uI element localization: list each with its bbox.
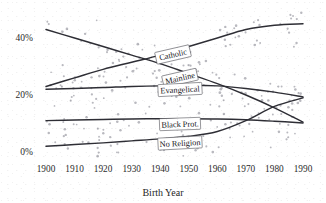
scatter-point (182, 155, 184, 157)
scatter-point (242, 98, 244, 100)
scatter-point (253, 44, 256, 47)
scatter-point (294, 133, 296, 135)
scatter-point (128, 125, 130, 127)
scatter-point (211, 151, 214, 154)
scatter-point (117, 152, 119, 154)
scatter-point (103, 76, 105, 78)
scatter-point (218, 146, 220, 148)
x-tick-1960: 1960 (208, 164, 227, 174)
series-label-catholic: Catholic (155, 45, 192, 65)
scatter-point (134, 101, 137, 104)
scatter-point (229, 44, 231, 46)
scatter-point (234, 73, 236, 75)
scatter-point (295, 42, 297, 44)
series-label-text: Black Prot. (161, 119, 199, 129)
scatter-point (198, 61, 201, 64)
scatter-point (98, 46, 100, 48)
scatter-point (235, 24, 238, 27)
scatter-point (61, 86, 63, 88)
scatter-point (287, 124, 289, 126)
scatter-point (82, 141, 84, 143)
scatter-point (218, 105, 220, 107)
x-tick-1900: 1900 (37, 164, 56, 174)
scatter-point (269, 83, 271, 85)
scatter-point (126, 76, 128, 78)
series-label-no-religion: No Religion (158, 136, 203, 150)
scatter-point (234, 37, 236, 39)
scatter-point (263, 108, 265, 110)
scatter-point (112, 62, 115, 65)
scatter-point (215, 74, 217, 76)
scatter-point (148, 106, 150, 108)
scatter-point (110, 145, 112, 147)
x-tick-1980: 1980 (265, 164, 284, 174)
scatter-point (299, 99, 302, 102)
scatter-point (294, 88, 297, 91)
scatter-point (223, 113, 226, 116)
scatter-point (65, 134, 67, 136)
scatter-point (106, 51, 108, 53)
scatter-point (111, 89, 114, 92)
scatter-point (91, 93, 93, 95)
scatter-point (296, 102, 299, 105)
scatter-point (233, 27, 235, 29)
scatter-point (62, 64, 64, 66)
scatter-point (98, 75, 101, 78)
scatter-point (194, 149, 196, 151)
scatter-point (267, 99, 270, 102)
scatter-point (253, 21, 255, 23)
scatter-point (223, 99, 225, 101)
scatter-point (103, 97, 105, 99)
scatter-point (109, 136, 111, 138)
scatter-point (289, 14, 291, 16)
scatter-point (292, 15, 294, 17)
scatter-point (83, 128, 85, 130)
scatter-point (226, 32, 228, 34)
scatter-point (198, 112, 201, 115)
x-tick-1940: 1940 (151, 164, 170, 174)
scatter-point (287, 136, 289, 138)
scatter-point (259, 42, 261, 44)
scatter-point (94, 107, 96, 109)
scatter-point (221, 95, 223, 97)
scatter-point (238, 35, 241, 38)
scatter-point (125, 66, 127, 68)
x-tick-1950: 1950 (180, 164, 199, 174)
scatter-point (202, 135, 204, 137)
scatter-point (96, 19, 98, 21)
scatter-point (231, 93, 233, 95)
scatter-point (61, 30, 64, 33)
scatter-point (64, 128, 67, 131)
scatter-point (62, 121, 64, 123)
scatter-point (288, 32, 290, 34)
scatter-point (158, 69, 161, 72)
scatter-point (104, 71, 106, 73)
series-label-black-prot: Black Prot. (159, 117, 200, 130)
scatter-point (66, 28, 69, 31)
scatter-point (221, 87, 223, 89)
scatter-point (270, 146, 272, 148)
scatter-point (63, 75, 65, 77)
scatter-point (120, 48, 122, 50)
scatter-point (300, 12, 302, 14)
scatter-point (85, 116, 88, 119)
x-tick-1930: 1930 (122, 164, 141, 174)
scatter-point (73, 123, 75, 125)
scatter-point (84, 33, 86, 35)
scatter-point (97, 147, 99, 149)
scatter-point (291, 102, 294, 105)
scatter-point (81, 81, 83, 83)
scatter-point (286, 132, 288, 134)
scatter-point (145, 113, 147, 115)
scatter-point (160, 81, 162, 83)
scatter-point (277, 85, 279, 87)
x-tick-1990: 1990 (294, 164, 313, 174)
series-label-evangelical: Evangelical (158, 82, 203, 96)
scatter-point (118, 60, 120, 62)
scatter-point (141, 49, 143, 51)
scatter-point (95, 98, 97, 100)
x-axis-title: Birth Year (142, 187, 184, 198)
scatter-point (156, 133, 158, 135)
scatter-point (280, 113, 282, 115)
series-inline-labels: CatholicMainlineEvangelicalBlack Prot.No… (155, 45, 203, 150)
